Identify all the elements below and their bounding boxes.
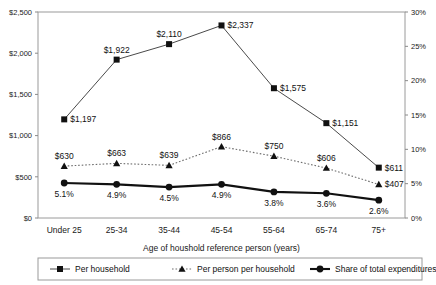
right-axis-tick-label: 15% — [411, 111, 426, 120]
data-point-marker — [271, 85, 277, 91]
data-point-label: $407 — [385, 179, 404, 189]
data-point-label: $1,922 — [104, 45, 130, 55]
data-point-label: 5.1% — [55, 189, 75, 199]
category-label: 55-64 — [263, 225, 285, 235]
right-axis-tick-label: 5% — [411, 179, 422, 188]
right-axis-tick-label: 0% — [411, 214, 422, 223]
category-label: 25-34 — [106, 225, 128, 235]
data-point-marker — [166, 41, 172, 47]
left-axis-tick-label: $1,500 — [9, 90, 32, 99]
data-point-marker — [61, 116, 67, 122]
data-point-label: $866 — [212, 132, 231, 142]
x-axis-title: Age of houshold reference person (years) — [143, 243, 300, 253]
data-point-marker — [375, 197, 382, 204]
left-axis-tick-label: $0 — [24, 214, 32, 223]
data-point-marker — [219, 22, 225, 28]
category-label: Under 25 — [47, 225, 82, 235]
data-point-marker — [218, 143, 225, 149]
data-point-label: $2,110 — [156, 29, 182, 39]
data-point-marker — [61, 162, 68, 168]
data-point-label: 4.5% — [159, 193, 179, 203]
legend-label: Per person per household — [197, 264, 295, 274]
right-axis-tick-label: 10% — [411, 145, 426, 154]
left-axis-tick-label: $2,500 — [9, 8, 32, 17]
category-label: 75+ — [372, 225, 386, 235]
data-point-marker — [114, 57, 120, 63]
data-point-marker — [323, 164, 330, 170]
data-point-marker — [376, 165, 382, 171]
data-point-label: 4.9% — [107, 190, 127, 200]
data-point-marker — [323, 120, 329, 126]
legend-marker — [57, 266, 63, 272]
data-point-label: 2.6% — [369, 206, 389, 216]
right-axis-tick-label: 30% — [411, 8, 426, 17]
data-point-marker — [113, 181, 120, 188]
data-point-label: 3.6% — [317, 199, 337, 209]
data-point-label: $611 — [385, 163, 404, 173]
category-label: 45-54 — [211, 225, 233, 235]
left-axis-tick-label: $1,000 — [9, 131, 32, 140]
data-point-label: $750 — [264, 141, 283, 151]
data-point-label: $2,337 — [228, 20, 254, 30]
data-point-label: $1,197 — [70, 114, 96, 124]
legend-label: Per household — [75, 264, 130, 274]
right-axis-tick-label: 20% — [411, 76, 426, 85]
data-point-label: 3.8% — [264, 198, 284, 208]
data-point-marker — [323, 190, 330, 197]
data-point-label: $639 — [160, 150, 179, 160]
data-point-marker — [166, 184, 173, 191]
data-point-label: $1,151 — [332, 118, 358, 128]
data-point-label: $1,575 — [280, 83, 306, 93]
data-point-label: $663 — [107, 148, 126, 158]
data-point-marker — [218, 181, 225, 188]
data-point-label: 4.9% — [212, 190, 232, 200]
data-point-label: $630 — [55, 151, 74, 161]
chart-container: $0$500$1,000$1,500$2,000$2,5000%5%10%15%… — [0, 0, 436, 285]
legend-marker — [317, 266, 324, 273]
legend-label: Share of total expenditures — [335, 264, 436, 274]
data-point-marker — [61, 180, 68, 187]
category-label: 35-44 — [158, 225, 180, 235]
data-point-marker — [271, 189, 278, 196]
category-label: 65-74 — [315, 225, 337, 235]
left-axis-tick-label: $2,000 — [9, 49, 32, 58]
expenditures-line-chart: $0$500$1,000$1,500$2,000$2,5000%5%10%15%… — [0, 0, 436, 285]
data-point-label: $606 — [317, 153, 336, 163]
left-axis-tick-label: $500 — [15, 173, 32, 182]
right-axis-tick-label: 25% — [411, 42, 426, 51]
